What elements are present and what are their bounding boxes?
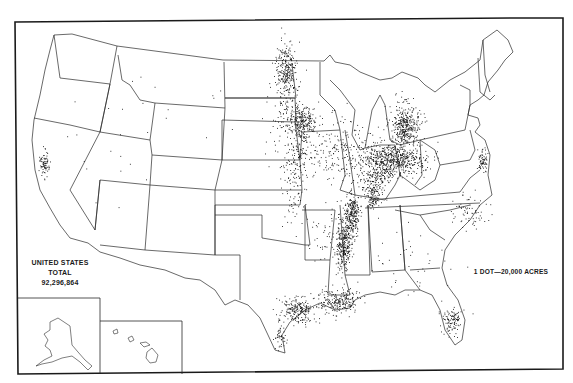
total-title: UNITED STATES — [30, 258, 90, 268]
dot-density-map — [0, 0, 573, 383]
legend-text: 1 DOT—20,000 ACRES — [474, 268, 548, 275]
total-subtitle: TOTAL — [30, 268, 90, 278]
legend: 1 DOT—20,000 ACRES — [466, 267, 556, 277]
state-boundaries — [32, 30, 513, 353]
state-lines — [34, 35, 495, 300]
alaska-outline — [36, 318, 92, 370]
alaska-inset — [18, 298, 100, 374]
total-value: 92,296,864 — [30, 278, 90, 288]
hawaii-islands — [113, 329, 158, 363]
hawaii-inset — [100, 321, 182, 374]
us-outline — [32, 30, 513, 353]
us-total-label: UNITED STATES TOTAL 92,296,864 — [30, 258, 90, 288]
